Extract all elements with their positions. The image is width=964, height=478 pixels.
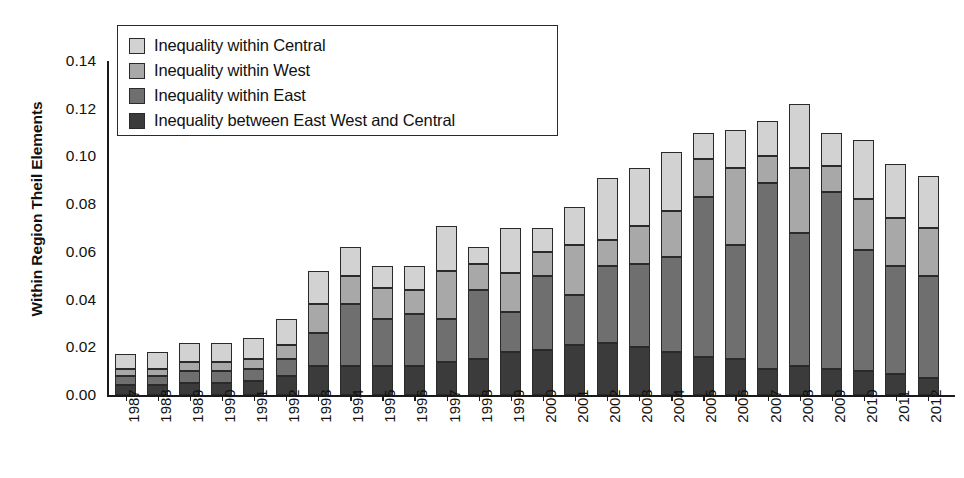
bar-segment xyxy=(564,295,585,345)
bar-segment xyxy=(243,338,264,359)
bar-segment xyxy=(115,376,136,386)
y-tick-label: 0.00 xyxy=(48,387,96,403)
bar-1991[interactable] xyxy=(243,338,264,395)
bar-segment xyxy=(404,290,425,314)
bar-segment xyxy=(404,314,425,366)
bar-1998[interactable] xyxy=(468,247,489,395)
bar-segment xyxy=(885,266,906,373)
legend-item[interactable]: Inequality within East xyxy=(129,83,557,108)
bar-segment xyxy=(629,226,650,264)
bar-segment xyxy=(757,156,778,182)
bar-segment xyxy=(211,362,232,372)
bar-segment xyxy=(500,273,521,311)
bar-segment xyxy=(725,245,746,360)
legend-label: Inequality within Central xyxy=(154,37,325,54)
bar-segment xyxy=(147,352,168,369)
bar-segment xyxy=(853,140,874,200)
y-tick-label: 0.10 xyxy=(48,149,96,165)
bar-1999[interactable] xyxy=(500,228,521,395)
y-tick-label: 0.14 xyxy=(48,53,96,69)
bar-segment xyxy=(853,199,874,249)
bar-segment xyxy=(629,168,650,225)
bar-segment xyxy=(597,178,618,240)
bar-segment xyxy=(404,266,425,290)
bar-segment xyxy=(564,245,585,295)
y-tick-label: 0.04 xyxy=(48,292,96,308)
bar-2006[interactable] xyxy=(725,130,746,395)
chart-container: Within Region Theil Elements 0.000.020.0… xyxy=(0,0,964,478)
bar-2005[interactable] xyxy=(693,133,714,395)
bar-1994[interactable] xyxy=(340,247,361,395)
bar-segment xyxy=(308,333,329,366)
bar-segment xyxy=(757,183,778,369)
bar-segment xyxy=(340,247,361,276)
legend-swatch-icon xyxy=(129,88,145,104)
legend-item[interactable]: Inequality within West xyxy=(129,58,557,83)
bar-segment xyxy=(853,250,874,372)
bar-segment xyxy=(693,133,714,159)
bar-1997[interactable] xyxy=(436,226,457,395)
bar-2001[interactable] xyxy=(564,207,585,395)
bar-2012[interactable] xyxy=(918,176,939,395)
y-axis-line xyxy=(107,61,109,395)
bar-2007[interactable] xyxy=(757,121,778,395)
bar-segment xyxy=(725,168,746,244)
bar-1992[interactable] xyxy=(276,319,297,395)
bar-2008[interactable] xyxy=(789,104,810,395)
bar-segment xyxy=(147,369,168,376)
bar-segment xyxy=(179,343,200,362)
bar-segment xyxy=(532,228,553,252)
bar-1990[interactable] xyxy=(211,343,232,395)
bar-segment xyxy=(276,319,297,345)
bar-segment xyxy=(629,347,650,395)
bar-segment xyxy=(211,371,232,383)
bar-1989[interactable] xyxy=(179,343,200,395)
bar-2011[interactable] xyxy=(885,164,906,395)
bar-segment xyxy=(500,312,521,353)
bar-segment xyxy=(468,247,489,264)
bar-segment xyxy=(597,343,618,395)
bar-segment xyxy=(789,233,810,367)
bar-1996[interactable] xyxy=(404,266,425,395)
bar-segment xyxy=(243,359,264,369)
bar-2004[interactable] xyxy=(661,152,682,395)
bar-segment xyxy=(372,319,393,367)
bar-segment xyxy=(532,350,553,395)
bar-segment xyxy=(276,359,297,376)
y-tick-label: 0.06 xyxy=(48,244,96,260)
bar-segment xyxy=(597,266,618,342)
bar-1995[interactable] xyxy=(372,266,393,395)
bar-2003[interactable] xyxy=(629,168,650,395)
bar-2002[interactable] xyxy=(597,178,618,395)
legend: Inequality within CentralInequality with… xyxy=(117,25,558,136)
legend-swatch-icon xyxy=(129,113,145,129)
bar-segment xyxy=(918,228,939,276)
bar-segment xyxy=(532,276,553,350)
bar-2009[interactable] xyxy=(821,133,842,395)
bar-segment xyxy=(179,362,200,372)
bar-segment xyxy=(436,271,457,319)
bar-segment xyxy=(661,211,682,256)
bar-2000[interactable] xyxy=(532,228,553,395)
bar-segment xyxy=(243,369,264,381)
bar-segment xyxy=(179,371,200,383)
bar-segment xyxy=(918,176,939,228)
legend-label: Inequality within East xyxy=(154,87,306,104)
bar-segment xyxy=(661,257,682,352)
bar-segment xyxy=(115,369,136,376)
bar-segment xyxy=(436,319,457,362)
bar-segment xyxy=(340,304,361,366)
legend-item[interactable]: Inequality between East West and Central xyxy=(129,108,557,133)
legend-swatch-icon xyxy=(129,63,145,79)
bar-segment xyxy=(693,159,714,197)
bar-2010[interactable] xyxy=(853,140,874,395)
bar-segment xyxy=(372,288,393,319)
bar-segment xyxy=(821,133,842,166)
y-tick-label: 0.08 xyxy=(48,196,96,212)
bar-1993[interactable] xyxy=(308,271,329,395)
legend-item[interactable]: Inequality within Central xyxy=(129,33,557,58)
bar-segment xyxy=(276,345,297,359)
bar-segment xyxy=(468,290,489,359)
bar-segment xyxy=(885,164,906,219)
bar-segment xyxy=(564,345,585,395)
